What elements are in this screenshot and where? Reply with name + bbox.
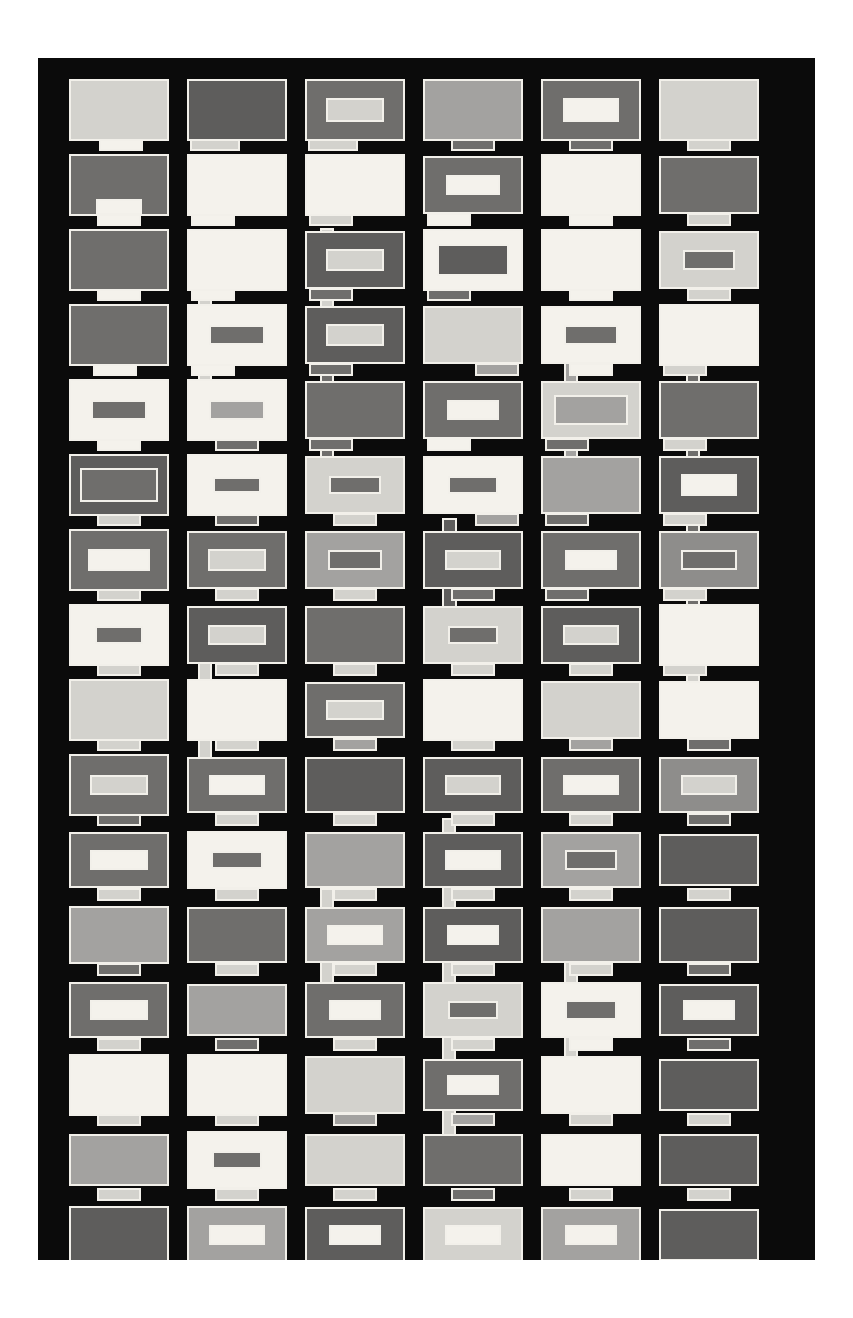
grid-cell: [423, 381, 523, 439]
row-connector: [97, 963, 141, 976]
grid-cell: [305, 682, 405, 738]
row-connector: [215, 1038, 259, 1051]
grid-cell-inner: [554, 395, 628, 425]
grid-cell: [69, 1134, 169, 1186]
grid-cell-inner: [437, 244, 509, 276]
grid-cell: [659, 1134, 759, 1186]
row-connector: [451, 663, 495, 676]
row-connector: [451, 1188, 495, 1201]
grid-cell: [305, 154, 405, 216]
grid-cell-inner: [90, 850, 148, 870]
grid-cell-inner: [326, 700, 384, 720]
grid-cell: [187, 531, 287, 589]
grid-cell: [305, 456, 405, 514]
grid-cell-inner: [329, 476, 381, 494]
grid-cell-inner: [96, 199, 142, 215]
grid-cell-inner: [565, 1225, 617, 1245]
grid-cell-inner: [326, 324, 384, 346]
grid-cell: [187, 1054, 287, 1116]
row-connector: [687, 813, 731, 826]
grid-cell: [541, 832, 641, 888]
row-connector: [333, 963, 377, 976]
grid-cell: [541, 1207, 641, 1260]
row-connector: [333, 1113, 377, 1126]
grid-cell: [69, 982, 169, 1038]
grid-cell: [659, 907, 759, 963]
grid-cell-inner: [683, 1000, 735, 1020]
grid-cell: [69, 379, 169, 441]
grid-cell: [305, 1207, 405, 1260]
grid-cell: [423, 757, 523, 813]
row-connector: [569, 738, 613, 751]
grid-cell-inner: [681, 775, 737, 795]
grid-cell: [541, 606, 641, 664]
row-connector: [569, 1038, 613, 1051]
row-connector: [569, 963, 613, 976]
grid-cell: [69, 79, 169, 141]
grid-cell: [69, 1054, 169, 1116]
grid-cell: [187, 79, 287, 141]
grid-cell: [305, 381, 405, 439]
grid-cell: [423, 1059, 523, 1111]
grid-cell-inner: [447, 1075, 499, 1095]
grid-cell: [423, 1207, 523, 1260]
grid-cell: [541, 306, 641, 364]
grid-cell-inner: [681, 474, 737, 496]
grid-cell: [659, 1059, 759, 1111]
grid-cell: [187, 679, 287, 741]
row-connector: [309, 438, 353, 451]
grid-cell: [305, 907, 405, 963]
grid-cell: [187, 379, 287, 441]
grid-cell-inner: [208, 625, 266, 645]
grid-cell-inner: [447, 400, 499, 420]
grid-cell: [659, 604, 759, 666]
grid-cell-inner: [681, 550, 737, 570]
grid-cell: [187, 154, 287, 216]
grid-cell-inner: [95, 626, 143, 644]
row-connector: [451, 963, 495, 976]
grid-cell: [305, 1056, 405, 1114]
row-connector: [333, 588, 377, 601]
grid-cell-inner: [445, 850, 501, 870]
grid-cell-inner: [90, 1000, 148, 1020]
grid-cell: [423, 456, 523, 514]
row-connector: [427, 438, 471, 451]
row-connector: [333, 888, 377, 901]
row-connector: [97, 1038, 141, 1051]
grid-cell: [659, 757, 759, 813]
grid-cell-inner: [211, 851, 263, 869]
grid-cell-inner: [209, 1225, 265, 1245]
grid-cell: [305, 1134, 405, 1186]
grid-cell: [69, 154, 169, 216]
row-connector: [663, 513, 707, 526]
grid-cell: [541, 229, 641, 291]
grid-cell: [541, 154, 641, 216]
grid-cell-inner: [683, 250, 735, 270]
row-connector: [687, 1113, 731, 1126]
row-connector: [663, 588, 707, 601]
artwork-canvas: [38, 58, 815, 1260]
row-connector: [687, 1188, 731, 1201]
grid-cell-inner: [90, 775, 148, 795]
row-connector: [545, 513, 589, 526]
grid-cell: [423, 531, 523, 589]
grid-cell: [69, 679, 169, 741]
artwork-stage: [0, 0, 853, 1318]
grid-cell: [305, 832, 405, 888]
row-connector: [569, 1113, 613, 1126]
row-connector: [569, 813, 613, 826]
grid-cell: [305, 531, 405, 589]
grid-cell-inner: [209, 775, 265, 795]
grid-cell-inner: [88, 549, 150, 571]
grid-cell: [69, 229, 169, 291]
grid-cell-inner: [212, 1151, 262, 1169]
grid-cell: [69, 754, 169, 816]
row-connector: [687, 888, 731, 901]
row-connector: [451, 888, 495, 901]
grid-cell: [69, 1206, 169, 1260]
row-connector: [687, 738, 731, 751]
row-connector: [333, 663, 377, 676]
grid-cell: [69, 304, 169, 366]
grid-cell: [541, 1134, 641, 1186]
grid-cell-inner: [329, 1000, 381, 1020]
